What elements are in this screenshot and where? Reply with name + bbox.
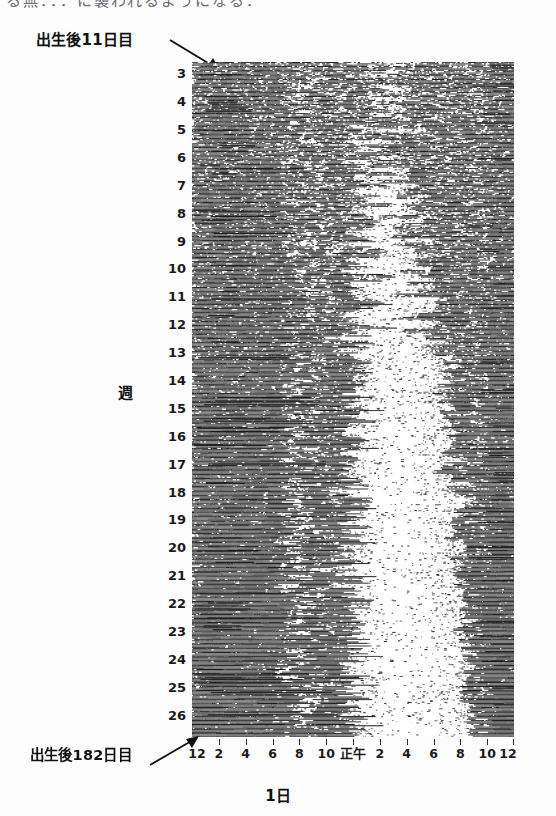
week-axis-labels: 3456789101112131415161718192021222324252…: [150, 62, 190, 737]
hour-tick-label: 10: [478, 747, 495, 761]
cut-off-header-text: る無．．．に襲われるようになる．: [0, 0, 556, 9]
hour-tick-mark: [513, 739, 514, 745]
week-tick-label: 22: [168, 597, 186, 610]
week-tick-label: 3: [177, 67, 186, 80]
hour-tick-label: 4: [241, 747, 250, 761]
week-tick-label: 13: [168, 346, 186, 359]
hour-tick-label: 4: [402, 747, 411, 761]
x-axis-caption: 1日: [0, 784, 556, 805]
week-tick-label: 4: [177, 95, 186, 108]
hour-tick-label: 2: [214, 747, 223, 761]
week-tick-label: 19: [168, 513, 186, 526]
hour-tick-label: 8: [295, 747, 304, 761]
week-tick-label: 25: [168, 680, 186, 693]
week-tick-label: 24: [168, 652, 186, 665]
hour-tick-mark: [407, 739, 408, 745]
hour-tick-mark: [246, 739, 247, 745]
annotation-start-day: 出生後11日目: [36, 28, 133, 49]
hour-tick-mark: [353, 739, 354, 745]
hour-tick-label: 12: [499, 747, 516, 761]
hour-tick-mark: [299, 739, 300, 745]
hour-tick-label: 10: [317, 747, 334, 761]
y-axis-caption: 週: [118, 381, 133, 402]
hour-tick-mark: [380, 739, 381, 745]
week-tick-label: 16: [168, 429, 186, 442]
week-tick-label: 26: [168, 708, 186, 721]
hour-tick-label: 2: [375, 747, 384, 761]
hour-tick-mark: [434, 739, 435, 745]
week-tick-label: 8: [177, 206, 186, 219]
week-tick-label: 10: [168, 262, 186, 275]
actogram-plot-area: [192, 62, 514, 737]
hour-tick-label: 6: [268, 747, 277, 761]
week-tick-label: 6: [177, 150, 186, 163]
hour-tick-mark: [219, 739, 220, 745]
hour-tick-mark: [273, 739, 274, 745]
hour-tick-mark: [487, 739, 488, 745]
week-tick-label: 9: [177, 234, 186, 247]
hour-tick-mark: [460, 739, 461, 745]
week-tick-label: 17: [168, 457, 186, 470]
week-tick-label: 14: [168, 373, 186, 386]
annotation-end-day: 出生後182日目: [30, 743, 132, 764]
week-tick-label: 5: [177, 122, 186, 135]
week-tick-label: 18: [168, 485, 186, 498]
arrow-pointer-end-icon: [148, 735, 200, 767]
week-tick-label: 21: [168, 569, 186, 582]
week-tick-label: 20: [168, 541, 186, 554]
week-tick-label: 7: [177, 178, 186, 191]
hour-axis-labels: 12246810正午24681012: [192, 747, 514, 765]
hour-tick-label: 8: [456, 747, 465, 761]
week-tick-label: 23: [168, 625, 186, 638]
hour-tick-label: 6: [429, 747, 438, 761]
week-tick-label: 12: [168, 318, 186, 331]
week-tick-label: 15: [168, 401, 186, 414]
hour-tick-label: 正午: [340, 747, 366, 762]
week-tick-label: 11: [168, 290, 186, 303]
hour-tick-mark: [326, 739, 327, 745]
actogram-raster: [192, 62, 514, 737]
